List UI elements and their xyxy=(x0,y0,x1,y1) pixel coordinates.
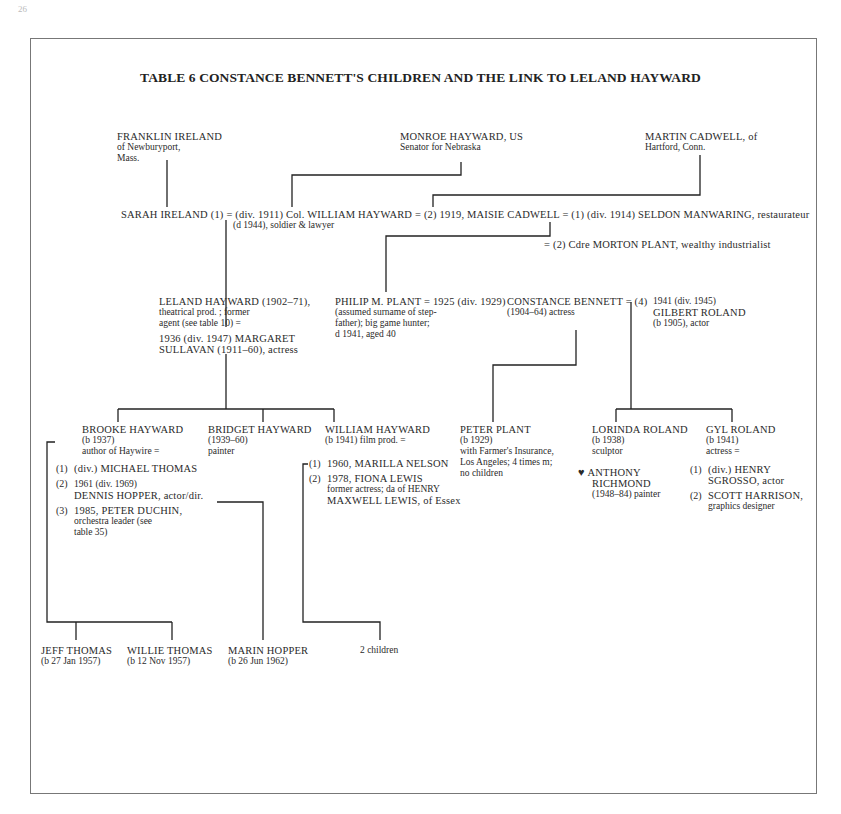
node-gyl-roland: GYL ROLAND (b 1941) actress = xyxy=(706,424,776,457)
node-willie-thomas: WILLIE THOMAS (b 12 Nov 1957) xyxy=(127,645,213,667)
spouse-scott-harrison: (2)SCOTT HARRISON, graphics designer xyxy=(690,490,803,512)
spouse-peter-duchin: (3)1985, PETER DUCHIN, orchestra leader … xyxy=(56,505,203,538)
spouse-michael-thomas: (1)(div.) MICHAEL THOMAS xyxy=(56,463,203,474)
node-lorinda-roland: LORINDA ROLAND (b 1938) sculptor xyxy=(592,424,688,457)
node-martin-cadwell: MARTIN CADWELL, of Hartford, Conn. xyxy=(645,131,757,153)
heart-icon: ♥ xyxy=(578,466,585,478)
spouse-henry-sgrosso: (1)(div.) HENRY SGROSSO, actor xyxy=(690,464,803,486)
node-william-hayward-jr: WILLIAM HAYWARD (b 1941) film prod. = xyxy=(325,424,430,446)
family-tree-lines xyxy=(0,0,841,814)
node-gilbert-roland: 1941 (div. 1945) GILBERT ROLAND (b 1905)… xyxy=(653,296,746,329)
spouse-dennis-hopper: (2)1961 (div. 1969) DENNIS HOPPER, actor… xyxy=(56,478,203,501)
node-anthony-richmond: ♥ANTHONY RICHMOND (1948–84) painter xyxy=(578,467,660,500)
gyl-spouses: (1)(div.) HENRY SGROSSO, actor (2)SCOTT … xyxy=(690,464,803,512)
node-franklin-ireland: FRANKLIN IRELAND of Newburyport, Mass. xyxy=(117,131,222,164)
node-bridget-hayward: BRIDGET HAYWARD (1939–60) painter xyxy=(208,424,312,457)
brooke-spouses: (1)(div.) MICHAEL THOMAS (2)1961 (div. 1… xyxy=(56,463,203,538)
node-william-children: 2 children xyxy=(360,645,398,656)
spouse-fiona-lewis: (2)1978, FIONA LEWIS former actress; da … xyxy=(309,473,461,506)
node-jeff-thomas: JEFF THOMAS (b 27 Jan 1957) xyxy=(41,645,112,667)
node-william-hayward-note: (d 1944), soldier & lawyer xyxy=(233,220,334,231)
william-spouses: (1)1960, MARILLA NELSON (2)1978, FIONA L… xyxy=(309,458,461,506)
spouse-marilla-nelson: (1)1960, MARILLA NELSON xyxy=(309,458,461,469)
node-morton-plant: = (2) Cdre MORTON PLANT, wealthy industr… xyxy=(544,239,771,250)
node-constance-bennett: CONSTANCE BENNETT = (4) (1904–64) actres… xyxy=(507,296,647,318)
node-hayward-marriage-line: SARAH IRELAND (1) = (div. 1911) Col. WIL… xyxy=(121,209,809,220)
node-brooke-hayward: BROOKE HAYWARD (b 1937) author of Haywir… xyxy=(82,424,183,457)
node-peter-plant: PETER PLANT (b 1929) with Farmer's Insur… xyxy=(460,424,554,479)
node-monroe-hayward: MONROE HAYWARD, US Senator for Nebraska xyxy=(400,131,523,153)
node-philip-plant: PHILIP M. PLANT = 1925 (div. 1929) (assu… xyxy=(335,296,506,340)
node-marin-hopper: MARIN HOPPER (b 26 Jun 1962) xyxy=(228,645,308,667)
node-leland-hayward: LELAND HAYWARD (1902–71), theatrical pro… xyxy=(159,296,310,355)
